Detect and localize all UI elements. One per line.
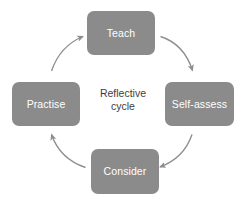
arrow-practise-to-teach [52,37,84,72]
arrow-consider-to-practise [52,135,86,168]
reflective-cycle-diagram: Teach Self-assess Consider Practise Refl… [0,0,244,205]
node-self-assess-label: Self-assess [172,98,227,110]
node-practise-label: Practise [27,98,66,110]
center-caption: Reflective cycle [82,87,164,113]
center-caption-line-2: cycle [82,100,164,113]
center-caption-line-1: Reflective [82,87,164,100]
node-consider-label: Consider [104,165,147,177]
node-practise: Practise [12,82,80,126]
node-self-assess: Self-assess [165,82,234,126]
node-teach-label: Teach [107,27,136,39]
node-teach: Teach [87,11,155,55]
arrow-self-assess-to-consider [160,135,192,168]
node-consider: Consider [91,149,159,194]
arrow-teach-to-self-assess [161,37,193,71]
